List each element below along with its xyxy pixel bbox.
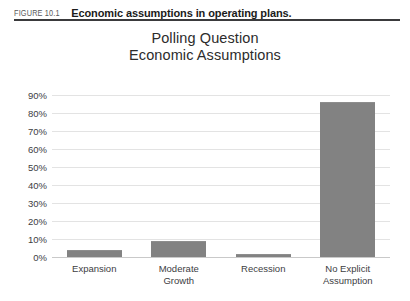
x-axis-label-line: Recession xyxy=(221,263,306,275)
x-axis-label-line: No Explicit xyxy=(306,263,391,275)
y-axis-tick-label: 60% xyxy=(11,144,47,155)
plot-area: 0%10%20%30%40%50%60%70%80%90% ExpansionM… xyxy=(52,95,390,257)
bar-no-explicit-assumption xyxy=(320,102,375,257)
bar-expansion xyxy=(67,250,122,257)
x-axis-label-line: Expansion xyxy=(52,263,137,275)
y-axis-tick-label: 10% xyxy=(11,234,47,245)
figure-caption-text: Economic assumptions in operating plans. xyxy=(71,7,291,19)
bar-moderate-growth xyxy=(151,241,206,257)
y-axis-tick-label: 80% xyxy=(11,108,47,119)
y-axis-tick-label: 30% xyxy=(11,198,47,209)
caption-divider xyxy=(14,19,400,21)
x-axis-label: Expansion xyxy=(52,263,137,275)
bar-recession xyxy=(236,254,291,257)
bar-chart: Polling Question Economic Assumptions 0%… xyxy=(0,24,410,301)
chart-title: Polling Question Economic Assumptions xyxy=(0,30,410,64)
figure-number: FIGURE 10.1 xyxy=(14,8,60,18)
x-axis-label: ModerateGrowth xyxy=(137,263,222,286)
figure-caption: FIGURE 10.1Economic assumptions in opera… xyxy=(14,3,400,17)
y-axis-tick-label: 0% xyxy=(11,252,47,263)
y-axis-tick-label: 50% xyxy=(11,162,47,173)
y-axis-tick-label: 20% xyxy=(11,216,47,227)
chart-title-line-2: Economic Assumptions xyxy=(0,47,410,64)
x-axis-label-line: Assumption xyxy=(306,275,391,287)
y-axis-tick-label: 90% xyxy=(11,90,47,101)
x-axis-label: Recession xyxy=(221,263,306,275)
y-axis-tick-label: 40% xyxy=(11,180,47,191)
chart-title-line-1: Polling Question xyxy=(0,30,410,47)
x-axis-label: No ExplicitAssumption xyxy=(306,263,391,286)
gridline xyxy=(52,257,390,258)
y-axis-tick-label: 70% xyxy=(11,126,47,137)
figure-header: FIGURE 10.1Economic assumptions in opera… xyxy=(0,0,410,24)
gridline xyxy=(52,95,390,96)
x-axis-label-line: Moderate xyxy=(137,263,222,275)
x-axis-label-line: Growth xyxy=(137,275,222,287)
